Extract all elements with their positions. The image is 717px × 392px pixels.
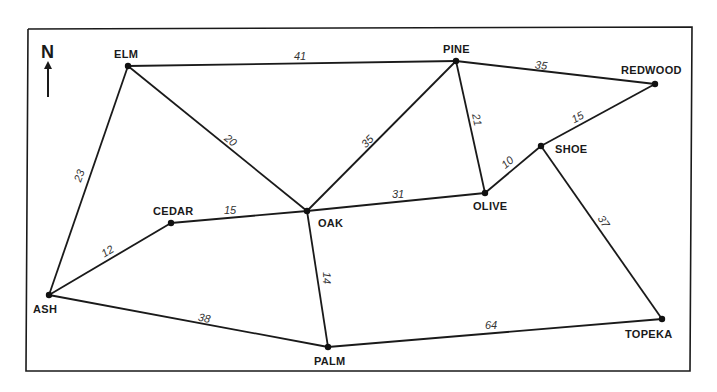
nodes-layer [46,58,665,350]
node-label-topeka: TOPEKA [625,328,672,340]
edge-weight-label: 20 [221,131,240,149]
edge-elm-ash [49,66,128,295]
edge-shoe-topeka [541,146,662,319]
route-network-diagram: N 412320353521151037311514123864 ELMPINE… [0,0,717,392]
edge-weight-label: 35 [534,58,548,72]
edge-pine-olive [456,61,485,193]
edge-pine-oak [307,61,456,211]
north-label: N [41,42,54,62]
north-compass: N [41,42,54,97]
edge-weight-label: 21 [470,112,484,127]
node-label-olive: OLIVE [473,200,508,212]
node-label-palm: PALM [314,355,346,367]
edge-weight-label: 15 [224,204,237,216]
node-label-cedar: CEDAR [153,205,194,217]
edge-ash-palm [49,295,328,347]
edge-weight-label: 23 [71,167,87,184]
north-arrow-head-icon [44,61,52,69]
node-label-oak: OAK [318,217,343,229]
edge-weight-label: 31 [392,188,404,200]
diagram-frame [26,27,692,371]
node-topeka-dot-icon [659,316,665,322]
edge-cedar-ash [49,223,171,295]
node-olive-dot-icon [482,190,488,196]
node-label-shoe: SHOE [555,143,587,155]
edges-layer [49,61,662,347]
edge-weight-label: 64 [485,319,497,331]
edge-shoe-olive [485,146,541,193]
node-cedar-dot-icon [168,220,174,226]
edge-weight-label: 41 [294,50,306,62]
edge-elm-pine [128,61,456,66]
node-ash-dot-icon [46,292,52,298]
edge-weight-label: 35 [359,132,377,150]
node-label-pine: PINE [443,43,470,55]
node-label-ash: ASH [33,303,57,315]
edge-elm-oak [128,66,307,211]
node-shoe-dot-icon [538,143,544,149]
edge-weight-label: 14 [321,272,333,285]
node-label-elm: ELM [114,48,138,60]
node-palm-dot-icon [325,344,331,350]
node-redwood-dot-icon [652,81,658,87]
node-elm-dot-icon [125,63,131,69]
edge-redwood-shoe [541,84,655,146]
weights-layer: 412320353521151037311514123864 [71,50,613,331]
node-pine-dot-icon [453,58,459,64]
node-label-redwood: REDWOOD [621,64,682,76]
labels-layer: ELMPINEREDWOODSHOEOLIVEOAKCEDARASHPALMTO… [33,43,682,367]
node-oak-dot-icon [304,208,310,214]
